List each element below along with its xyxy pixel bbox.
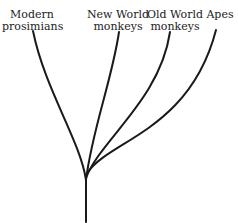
tree-lines — [0, 0, 238, 223]
phylogeny-diagram: Modern prosimians New World monkeys Old … — [0, 0, 238, 223]
branch-prosimians — [33, 31, 86, 180]
branch-old-world — [86, 32, 170, 178]
branch-apes — [88, 30, 216, 172]
